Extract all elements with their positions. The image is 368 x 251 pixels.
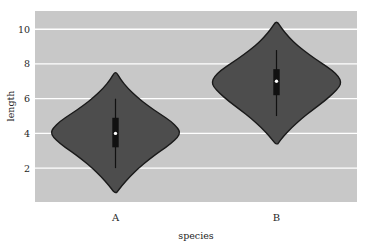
y-tick-label: 10	[18, 24, 30, 35]
y-tick-label: 4	[24, 128, 30, 139]
plot-canvas: 246810 AB length species	[0, 0, 368, 251]
y-axis-title: length	[5, 91, 16, 122]
y-tick-label: 8	[24, 58, 30, 69]
y-tick-label: 6	[24, 93, 30, 104]
x-tick-label-a: A	[111, 212, 120, 223]
median-marker	[275, 80, 278, 83]
y-tick-label: 2	[24, 163, 30, 174]
violin-plot-figure: 246810 AB length species	[0, 0, 368, 251]
x-axis-title: species	[178, 230, 214, 241]
x-tick-label-b: B	[273, 212, 280, 223]
median-marker	[114, 132, 117, 135]
